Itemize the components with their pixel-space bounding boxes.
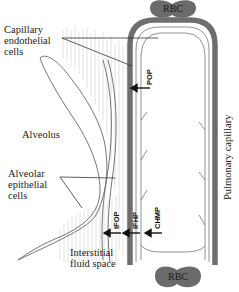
- alveolar-epithelium: [18, 56, 116, 262]
- rbc-top: RBC: [150, 0, 196, 17]
- ifhp-label: IFHP: [131, 212, 140, 229]
- svg-text:RBC: RBC: [168, 271, 188, 282]
- capillary-wall: [130, 20, 215, 265]
- pop-label: POP: [145, 69, 154, 85]
- alveolar-epithelial-label: Alveolar epithelial cells: [8, 168, 47, 201]
- capillary-endothelial-label: Capillary endothelial cells: [4, 24, 51, 57]
- alveolus-label: Alveolus: [22, 129, 60, 140]
- rbc-bottom: RBC: [155, 266, 201, 287]
- pulmonary-capillary-label: Pulmonary capillary: [222, 115, 233, 200]
- endothelial-lining: [136, 27, 209, 262]
- svg-text:RBC: RBC: [163, 3, 183, 14]
- chmp-label: CHMP: [153, 207, 162, 229]
- interstitial-fluid-label: Interstitial fluid space: [70, 247, 116, 269]
- ifop-label: IFOP: [112, 211, 121, 229]
